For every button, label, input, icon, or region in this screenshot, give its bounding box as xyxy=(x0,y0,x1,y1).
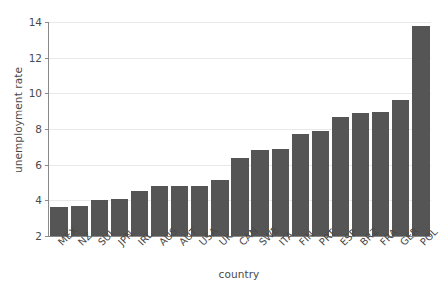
bar[interactable] xyxy=(272,149,289,236)
gridline xyxy=(49,58,431,59)
y-tick-mark xyxy=(45,129,49,130)
y-tick-mark xyxy=(45,236,49,237)
bar[interactable] xyxy=(251,150,268,236)
y-tick-label: 6 xyxy=(35,159,42,171)
bar[interactable] xyxy=(312,131,329,236)
y-axis-title: unemployment rate xyxy=(12,0,30,240)
y-tick-label: 12 xyxy=(29,52,42,64)
bar[interactable] xyxy=(352,113,369,236)
y-tick-label: 14 xyxy=(29,16,42,28)
x-axis-title: country xyxy=(48,268,430,280)
y-tick-label: 2 xyxy=(35,230,42,242)
gridline xyxy=(49,93,431,94)
bar-chart: unemployment rate 2468101214 MEXNZSUIJPN… xyxy=(0,0,446,295)
y-tick-label: 10 xyxy=(29,87,42,99)
y-tick-mark xyxy=(45,200,49,201)
y-tick-mark xyxy=(45,58,49,59)
bar[interactable] xyxy=(332,117,349,236)
y-tick-mark xyxy=(45,22,49,23)
bar[interactable] xyxy=(412,26,429,236)
y-tick-label: 8 xyxy=(35,123,42,135)
y-tick-label: 4 xyxy=(35,194,42,206)
bar[interactable] xyxy=(292,134,309,236)
bar[interactable] xyxy=(231,158,248,236)
y-tick-mark xyxy=(45,93,49,94)
bar[interactable] xyxy=(151,186,168,236)
bar[interactable] xyxy=(372,112,389,236)
gridline xyxy=(49,22,431,23)
plot-area: 2468101214 xyxy=(48,22,431,237)
y-tick-mark xyxy=(45,165,49,166)
bar[interactable] xyxy=(392,100,409,236)
